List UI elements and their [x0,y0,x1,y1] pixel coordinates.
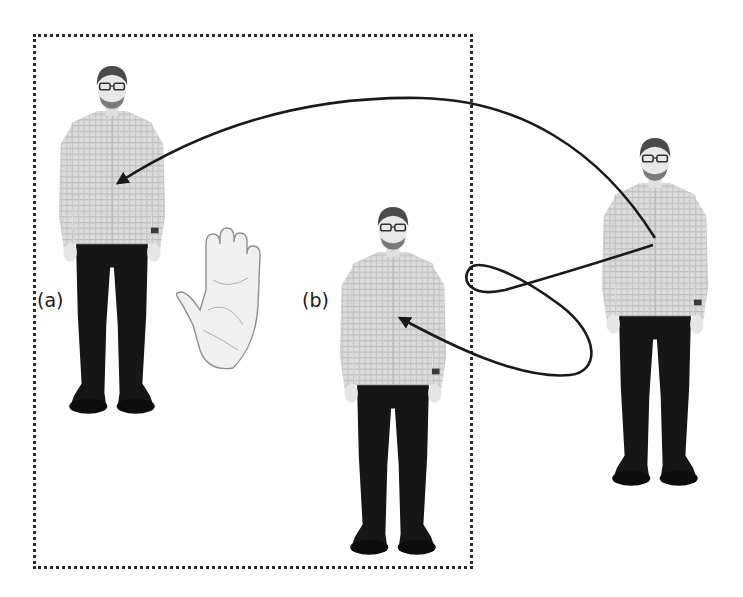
figure-drawing [0,0,743,597]
label-b: (b) [302,291,329,310]
person-a [59,66,165,414]
raised-palm-stop-icon [177,228,260,369]
label-a: (a) [37,291,63,310]
figure-canvas: (a) (b) [0,0,743,597]
person-b [340,207,446,555]
